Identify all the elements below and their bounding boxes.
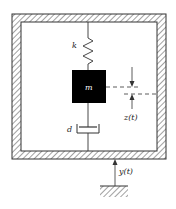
damper-d [77,103,99,151]
spring-mass-damper-diagram: k m z(t) d y(t) [0,0,176,209]
z-displacement-label: z(t) [123,113,138,122]
spring-k [83,22,93,70]
damper-label: d [67,125,72,134]
y-displacement-arrow [113,159,118,186]
y-displacement-label: y(t) [118,167,133,176]
mass-label: m [85,83,93,92]
z-displacement-arrows [130,67,135,109]
ground [100,186,128,197]
spring-label: k [72,41,77,50]
